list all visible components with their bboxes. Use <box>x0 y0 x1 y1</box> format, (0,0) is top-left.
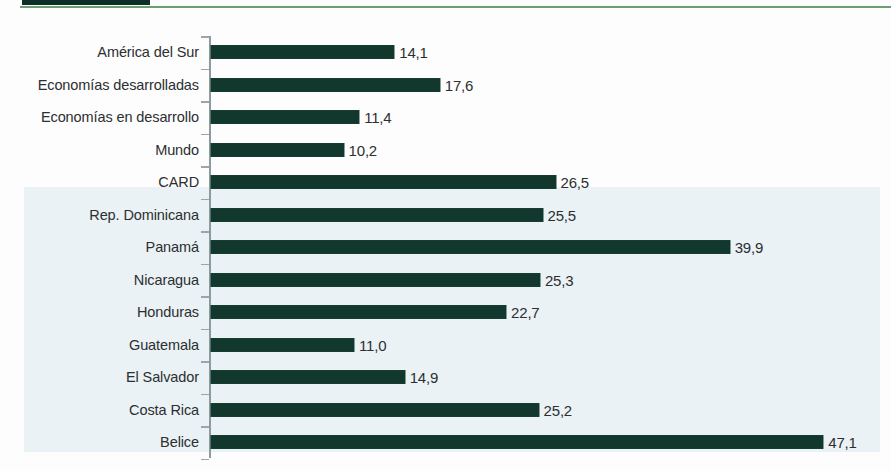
bar-row: Belice47,1 <box>0 426 891 459</box>
bar-value-label: 11,4 <box>364 109 391 126</box>
category-label: Guatemala <box>129 337 199 353</box>
category-label: Panamá <box>146 239 199 255</box>
bar-row: Economías en desarrollo11,4 <box>0 101 891 134</box>
bar <box>211 208 543 221</box>
category-label: Belice <box>160 434 199 450</box>
bar-value-label: 25,3 <box>545 271 573 288</box>
category-label: América del Sur <box>97 44 199 60</box>
axis-tick <box>201 36 209 38</box>
bar-row: Guatemala11,0 <box>0 329 891 362</box>
bar <box>211 306 506 319</box>
bar <box>211 143 344 156</box>
axis-tick <box>201 166 209 168</box>
category-label: Economías en desarrollo <box>41 109 199 125</box>
bar <box>211 436 823 449</box>
bar-value-label: 10,2 <box>349 141 377 158</box>
bar-row: América del Sur14,1 <box>0 36 891 69</box>
bar <box>211 273 540 286</box>
axis-tick <box>201 199 209 201</box>
category-label: Economías desarrolladas <box>38 77 199 93</box>
bar <box>211 338 354 351</box>
axis-tick <box>201 296 209 298</box>
bar <box>211 241 730 254</box>
bar-row: Costa Rica25,2 <box>0 394 891 427</box>
bar-chart: América del Sur14,1Economías desarrollad… <box>0 0 891 471</box>
bar-value-label: 47,1 <box>828 434 856 451</box>
bar-row: Panamá39,9 <box>0 231 891 264</box>
bar-row: Mundo10,2 <box>0 134 891 167</box>
bar <box>211 176 556 189</box>
axis-tick <box>201 394 209 396</box>
axis-tick <box>201 426 209 428</box>
axis-tick <box>201 69 209 71</box>
bar <box>211 371 405 384</box>
axis-tick <box>201 134 209 136</box>
bar-row: El Salvador14,9 <box>0 361 891 394</box>
bar-row: Rep. Dominicana25,5 <box>0 199 891 232</box>
category-label: Rep. Dominicana <box>89 207 199 223</box>
bar <box>211 78 440 91</box>
bar <box>211 46 394 59</box>
bar <box>211 403 539 416</box>
bar-value-label: 14,9 <box>410 369 438 386</box>
axis-tick <box>201 329 209 331</box>
category-label: Honduras <box>137 304 199 320</box>
bar-row: Nicaragua25,3 <box>0 264 891 297</box>
category-label: Mundo <box>155 142 199 158</box>
bar <box>211 111 359 124</box>
bar-value-label: 25,5 <box>548 206 576 223</box>
bar-value-label: 14,1 <box>399 44 427 61</box>
bar-value-label: 26,5 <box>561 174 589 191</box>
axis-tick <box>201 459 209 461</box>
bar-row-end <box>0 459 891 471</box>
category-label: Nicaragua <box>134 272 199 288</box>
bar-value-label: 11,0 <box>359 336 386 353</box>
bar-row: CARD26,5 <box>0 166 891 199</box>
category-label: CARD <box>158 174 199 190</box>
category-label: Costa Rica <box>129 402 199 418</box>
bar-row: Economías desarrolladas17,6 <box>0 69 891 102</box>
axis-tick <box>201 101 209 103</box>
category-label: El Salvador <box>126 369 199 385</box>
bar-value-label: 39,9 <box>735 239 763 256</box>
axis-tick <box>201 231 209 233</box>
bar-value-label: 25,2 <box>544 401 572 418</box>
bar-row: Honduras22,7 <box>0 296 891 329</box>
bar-value-label: 22,7 <box>511 304 539 321</box>
axis-tick <box>201 361 209 363</box>
axis-tick <box>201 264 209 266</box>
bar-value-label: 17,6 <box>445 76 473 93</box>
